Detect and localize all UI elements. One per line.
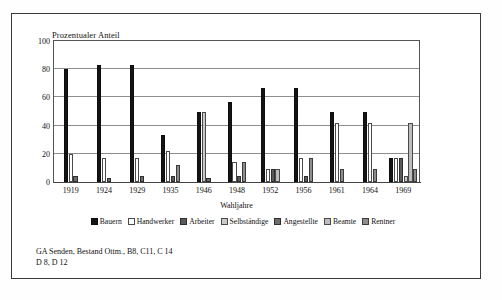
bar-group-1961	[330, 41, 344, 182]
legend-item-selbständige: Selbständige	[221, 217, 269, 226]
legend-item-bauern: Bauern	[91, 217, 122, 226]
figure-frame: Prozentualer Anteil 020406080100 1919192…	[11, 13, 481, 279]
bar-1956-rentner	[309, 158, 313, 182]
bar-1969-handwerker	[394, 158, 398, 182]
bar-1952-beamte	[275, 169, 279, 182]
x-axis-line	[53, 182, 421, 183]
figure-page: Prozentualer Anteil 020406080100 1919192…	[0, 0, 502, 300]
bar-1969-bauern	[389, 158, 393, 182]
legend-item-rentner: Rentner	[362, 217, 395, 226]
bar-1956-bauern	[294, 88, 298, 182]
bar-1952-bauern	[261, 88, 265, 182]
legend-label: Arbeiter	[189, 217, 214, 226]
x-tick-1919: 1919	[54, 186, 87, 195]
y-tick-60: 60	[24, 93, 50, 102]
legend-item-beamte: Beamte	[324, 217, 356, 226]
figure-caption: GA Senden, Bestand Ottm., B8, C11, C 14D…	[36, 246, 173, 268]
legend-swatch-icon-handwerker	[128, 218, 135, 225]
legend-item-angestellte: Angestellte	[274, 217, 318, 226]
bar-1964-bauern	[363, 112, 367, 183]
legend-swatch-icon-angestellte	[274, 218, 281, 225]
bar-group-1969	[389, 41, 417, 182]
bar-1935-handwerker	[166, 151, 170, 182]
caption-line-1: GA Senden, Bestand Ottm., B8, C11, C 14	[36, 246, 173, 257]
legend-swatch-icon-rentner	[362, 218, 369, 225]
bar-1961-bauern	[330, 112, 334, 183]
y-tick-20: 20	[24, 149, 50, 158]
bar-1961-handwerker	[335, 123, 339, 182]
bar-1929-bauern	[130, 65, 134, 182]
bar-1964-handwerker	[368, 123, 372, 182]
bar-group-1935	[161, 41, 180, 182]
legend-swatch-icon-beamte	[324, 218, 331, 225]
y-tick-0: 0	[24, 178, 50, 187]
legend-swatch-icon-bauern	[91, 218, 98, 225]
chart-container: Prozentualer Anteil 020406080100 1919192…	[12, 14, 482, 280]
bar-1948-rentner	[242, 162, 246, 182]
bar-1961-rentner	[340, 169, 344, 182]
y-tick-80: 80	[24, 65, 50, 74]
x-tick-1956: 1956	[287, 186, 320, 195]
bar-1919-handwerker	[69, 154, 73, 182]
legend-label: Beamte	[333, 217, 356, 226]
bar-1929-handwerker	[135, 158, 139, 182]
y-axis-tick-labels: 020406080100	[18, 40, 50, 183]
legend-swatch-icon-selbständige	[221, 218, 228, 225]
legend-label: Bauern	[100, 217, 122, 226]
bar-1924-handwerker	[102, 158, 106, 182]
bar-1948-handwerker	[232, 162, 236, 182]
x-tick-1924: 1924	[87, 186, 120, 195]
bar-1948-bauern	[228, 102, 232, 182]
bar-1935-bauern	[161, 135, 165, 182]
legend-label: Angestellte	[283, 217, 318, 226]
bar-1969-arbeiter	[399, 158, 403, 182]
legend-swatch-icon-arbeiter	[180, 218, 187, 225]
y-tick-40: 40	[24, 121, 50, 130]
bar-1952-handwerker	[266, 169, 270, 182]
x-axis-tick-labels: 1919192419291935194619481952195619611964…	[54, 186, 420, 200]
bar-group-1964	[363, 41, 377, 182]
legend-label: Rentner	[371, 217, 395, 226]
chart-legend: BauernHandwerkerArbeiterSelbständigeAnge…	[53, 217, 433, 226]
bar-group-1956	[294, 41, 313, 182]
x-tick-1969: 1969	[387, 186, 420, 195]
bar-1919-bauern	[64, 69, 68, 182]
bar-1952-arbeiter	[271, 169, 275, 182]
bar-group-1919	[64, 41, 78, 182]
x-tick-1935: 1935	[154, 186, 187, 195]
y-tick-100: 100	[24, 37, 50, 46]
bar-1924-bauern	[97, 65, 101, 182]
caption-line-2: D 8, D 12	[36, 257, 173, 268]
x-tick-1929: 1929	[121, 186, 154, 195]
bar-group-1924	[97, 41, 111, 182]
legend-item-arbeiter: Arbeiter	[180, 217, 214, 226]
bar-1969-rentner	[413, 169, 417, 182]
x-tick-1946: 1946	[187, 186, 220, 195]
legend-item-handwerker: Handwerker	[128, 217, 175, 226]
legend-label: Handwerker	[137, 217, 175, 226]
legend-label: Selbständige	[230, 217, 269, 226]
bar-1935-rentner	[176, 165, 180, 182]
y-axis-title: Prozentualer Anteil	[52, 30, 120, 40]
bar-1956-handwerker	[299, 158, 303, 182]
bars-layer	[54, 41, 420, 182]
bar-1946-selbständige	[202, 112, 206, 183]
x-tick-1948: 1948	[220, 186, 253, 195]
bar-1946-bauern	[197, 112, 201, 183]
bar-1964-rentner	[373, 169, 377, 182]
x-tick-1964: 1964	[353, 186, 386, 195]
bar-group-1946	[197, 41, 211, 182]
bar-group-1948	[228, 41, 247, 182]
bar-1969-beamte	[408, 123, 412, 182]
x-tick-1961: 1961	[320, 186, 353, 195]
bar-group-1952	[261, 41, 280, 182]
bar-group-1929	[130, 41, 144, 182]
x-tick-1952: 1952	[254, 186, 287, 195]
x-axis-title: Wahljahre	[53, 201, 420, 210]
